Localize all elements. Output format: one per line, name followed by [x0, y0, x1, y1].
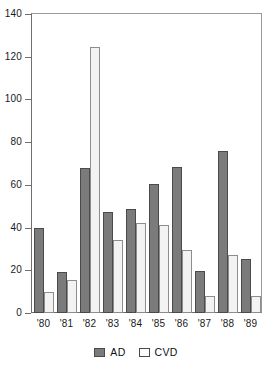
y-axis-tick-label: 60: [0, 180, 22, 190]
y-axis-tick: [25, 185, 31, 186]
y-axis-tick: [25, 313, 31, 314]
y-axis-tick: [25, 99, 31, 100]
y-axis-tick-label: 40: [0, 223, 22, 233]
legend-swatch-icon: [139, 348, 150, 357]
y-axis-tick: [25, 14, 31, 15]
bar-cvd-82: [90, 47, 100, 313]
legend-item-ad[interactable]: AD: [94, 347, 125, 358]
bar-ad-86: [172, 167, 182, 313]
y-axis-tick-label: 120: [0, 52, 22, 62]
plot-area: [32, 14, 262, 313]
legend-swatch-icon: [94, 348, 105, 357]
bar-cvd-89: [251, 296, 261, 313]
bar-ad-82: [80, 168, 90, 313]
legend-item-cvd[interactable]: CVD: [139, 347, 178, 358]
x-axis-tick-label: '89: [231, 318, 271, 329]
y-axis-tick: [25, 57, 31, 58]
legend-label: AD: [110, 347, 125, 358]
y-axis-tick: [25, 142, 31, 143]
y-axis-tick-label: 140: [0, 9, 22, 19]
bar-cvd-87: [205, 296, 215, 313]
bar-ad-83: [103, 212, 113, 313]
bar-ad-85: [149, 184, 159, 313]
y-axis-tick: [25, 270, 31, 271]
bar-cvd-88: [228, 255, 238, 313]
bar-ad-88: [218, 151, 228, 313]
bar-cvd-86: [182, 250, 192, 313]
y-axis-tick-label: 80: [0, 137, 22, 147]
bar-ad-84: [126, 209, 136, 313]
y-axis-tick-label: 100: [0, 94, 22, 104]
y-axis-tick: [25, 228, 31, 229]
bar-cvd-81: [67, 280, 77, 313]
bar-cvd-85: [159, 225, 169, 313]
bar-ad-89: [241, 259, 251, 313]
bar-cvd-84: [136, 223, 146, 313]
chart-legend: ADCVD: [0, 347, 272, 358]
bar-cvd-83: [113, 240, 123, 313]
bar-ad-81: [57, 272, 67, 313]
bar-cvd-80: [44, 292, 54, 313]
legend-label: CVD: [155, 347, 178, 358]
bar-ad-80: [34, 228, 44, 313]
y-axis-tick-label: 0: [0, 308, 22, 318]
bar-chart: 020406080100120140 '80'81'82'83'84'85'86…: [0, 0, 272, 372]
bar-ad-87: [195, 271, 205, 313]
y-axis-tick-label: 20: [0, 265, 22, 275]
